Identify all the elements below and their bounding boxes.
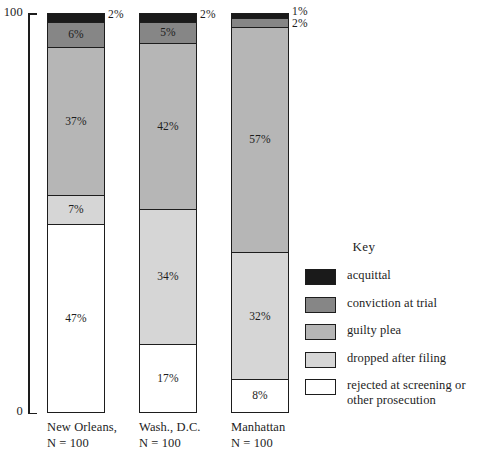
category-label-manhattan: Manhattan N = 100: [231, 419, 285, 451]
legend-label: conviction at trial: [347, 296, 437, 311]
segment-dropped-after-filing: 34%: [140, 209, 196, 344]
segment-value-label: 5%: [160, 27, 176, 39]
segment-value-label: 57%: [249, 134, 271, 146]
legend-item-dropped-after-filing: dropped after filing: [305, 351, 485, 368]
segment-guilty-plea: 42%: [140, 43, 196, 209]
legend-swatch-acquittal: [305, 269, 336, 285]
stacked-bar-chart: 100 0 6% 37% 7% 47% 2% 5% 42% 34% 17%: [0, 0, 485, 463]
callout-washington-acquittal: 2%: [200, 8, 216, 20]
segment-value-label: 47%: [65, 313, 87, 325]
legend-label: rejected at screening or other prosecuti…: [347, 378, 466, 408]
category-name: New Orleans,: [47, 420, 117, 434]
category-n: N = 100: [47, 435, 117, 451]
bar-washington: 5% 42% 34% 17%: [139, 13, 197, 413]
segment-rejected-at-screening: 47%: [48, 224, 104, 412]
segment-conviction-at-trial: 5%: [140, 22, 196, 43]
y-axis-label-0: 0: [8, 404, 23, 419]
segment-guilty-plea: 57%: [232, 27, 288, 253]
segment-value-label: 42%: [157, 121, 179, 133]
callout-manhattan-acquittal: 1%: [292, 5, 308, 17]
legend-item-guilty-plea: guilty plea: [305, 323, 485, 340]
legend-label: acquittal: [347, 268, 391, 283]
segment-value-label: 6%: [68, 29, 84, 41]
legend: Key acquittal conviction at trial guilty…: [305, 239, 485, 418]
segment-value-label: 34%: [157, 271, 179, 283]
segment-conviction-at-trial: [232, 18, 288, 27]
segment-value-label: 8%: [252, 390, 268, 402]
segment-value-label: 37%: [65, 116, 87, 128]
category-name: Wash., D.C.: [139, 420, 201, 434]
legend-swatch-guilty-plea: [305, 324, 336, 340]
segment-value-label: 7%: [68, 204, 84, 216]
legend-title: Key: [305, 239, 423, 255]
segment-rejected-at-screening: 8%: [232, 379, 288, 412]
segment-conviction-at-trial: 6%: [48, 22, 104, 47]
legend-label: guilty plea: [347, 323, 401, 338]
y-axis-line: [28, 13, 30, 414]
y-axis-label-100: 100: [0, 5, 23, 20]
segment-value-label: 32%: [249, 311, 271, 323]
category-label-washington: Wash., D.C. N = 100: [139, 419, 201, 451]
y-axis-tick-bottom: [28, 413, 37, 415]
bar-new-orleans: 6% 37% 7% 47%: [47, 13, 105, 413]
legend-label: dropped after filing: [347, 351, 446, 366]
legend-swatch-rejected-at-screening: [305, 379, 336, 395]
y-axis-tick-top: [28, 13, 37, 15]
category-n: N = 100: [139, 435, 201, 451]
callout-new-orleans-acquittal: 2%: [108, 8, 124, 20]
segment-acquittal: [140, 14, 196, 22]
segment-guilty-plea: 37%: [48, 47, 104, 195]
category-n: N = 100: [231, 435, 285, 451]
segment-value-label: 17%: [157, 373, 179, 385]
legend-item-conviction-at-trial: conviction at trial: [305, 296, 485, 313]
bar-manhattan: 57% 32% 8%: [231, 13, 289, 413]
segment-dropped-after-filing: 7%: [48, 195, 104, 224]
segment-rejected-at-screening: 17%: [140, 344, 196, 412]
segment-dropped-after-filing: 32%: [232, 252, 288, 379]
legend-item-rejected-at-screening: rejected at screening or other prosecuti…: [305, 378, 485, 408]
segment-acquittal: [48, 14, 104, 22]
callout-manhattan-conviction: 2%: [292, 17, 308, 29]
legend-swatch-conviction-at-trial: [305, 297, 336, 313]
legend-item-acquittal: acquittal: [305, 268, 485, 285]
category-name: Manhattan: [231, 420, 285, 434]
legend-swatch-dropped-after-filing: [305, 352, 336, 368]
category-label-new-orleans: New Orleans, N = 100: [47, 419, 117, 451]
